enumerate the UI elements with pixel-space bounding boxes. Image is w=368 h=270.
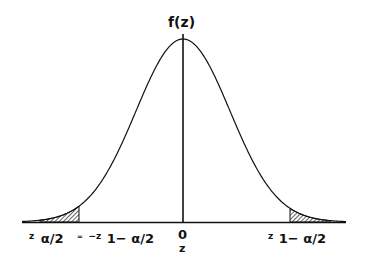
neg-critical-subscript: 1− α/2 bbox=[107, 231, 154, 246]
left-critical-label: z α/2 bbox=[29, 230, 64, 246]
x-axis-label: z bbox=[179, 243, 185, 254]
right-critical-label: z 1− α/2 bbox=[268, 230, 326, 246]
equals-sign: = bbox=[77, 233, 83, 241]
origin-label: 0 bbox=[178, 228, 187, 241]
right-critical-subscript: 1− α/2 bbox=[279, 231, 326, 246]
left-critical-subscript: α/2 bbox=[41, 231, 64, 246]
right-critical-var: z bbox=[268, 231, 273, 241]
left-critical-var: z bbox=[29, 231, 34, 241]
neg-critical-var: −z bbox=[88, 231, 101, 241]
left-critical-equiv-label: = −z 1− α/2 bbox=[77, 230, 154, 246]
y-axis-label: f(z) bbox=[168, 15, 195, 29]
bell-curve bbox=[22, 39, 346, 222]
